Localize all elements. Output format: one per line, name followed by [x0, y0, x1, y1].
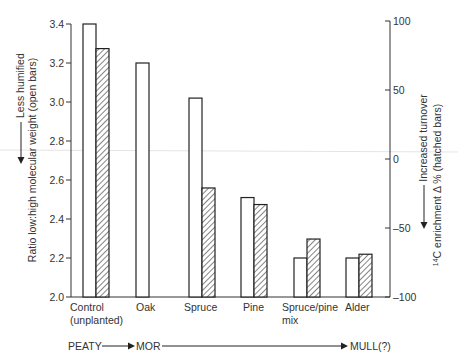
category-label: Alder: [345, 301, 370, 313]
open-bar: [136, 63, 149, 297]
bar-chart: 2.02.22.42.62.83.03.23.4 100500–50–100 C…: [0, 0, 458, 364]
left-tick-label: 3.2: [49, 57, 64, 69]
flow-label-peaty: PEATY: [68, 340, 102, 352]
left-tick-label: 2.6: [49, 174, 64, 186]
left-tick-label: 3.0: [49, 96, 64, 108]
left-tick-label: 2.2: [49, 252, 64, 264]
arrowhead-icon: [18, 157, 25, 164]
left-tick-label: 2.4: [49, 213, 64, 225]
category-label: (unplanted): [70, 314, 123, 326]
less-humified-label: Less humified: [14, 53, 26, 118]
open-bar: [241, 198, 254, 297]
arrowhead-icon: [421, 222, 428, 229]
category-label: Spruce: [184, 301, 217, 313]
left-axis-label: Ratio low:high molecular weight (open ba…: [26, 58, 38, 262]
soil-type-flow: PEATY MOR MULL(?): [68, 340, 391, 352]
right-axis-annotation: Increased turnover: [417, 94, 429, 229]
hatched-bar: [359, 254, 372, 297]
left-axis-annotation: Less humified: [14, 53, 26, 164]
increased-turnover-label: Increased turnover: [417, 94, 429, 182]
arrowhead-icon: [128, 343, 135, 350]
open-bar: [294, 258, 307, 297]
hatched-bar: [202, 188, 215, 297]
right-tick-label: –50: [393, 222, 411, 234]
category-label: Spruce/pine: [282, 301, 338, 313]
right-tick-label: –100: [393, 291, 417, 303]
hatched-bar: [254, 205, 267, 297]
category-labels: Control(unplanted)OakSprucePineSpruce/pi…: [70, 301, 370, 326]
category-label: Control: [70, 301, 104, 313]
hatched-bar: [307, 239, 320, 297]
open-bar: [189, 98, 202, 297]
category-label: Oak: [136, 301, 156, 313]
open-bar: [346, 258, 359, 297]
category-label: Pine: [243, 301, 264, 313]
right-tick-label: 50: [393, 84, 405, 96]
right-tick-label: 100: [393, 15, 411, 27]
right-axis-label: 14C enrichment Δ % (hatched bars): [431, 104, 443, 266]
left-tick-label: 2.0: [49, 291, 64, 303]
right-axis-title: 14C enrichment Δ % (hatched bars): [431, 104, 443, 266]
flow-label-mor: MOR: [136, 340, 161, 352]
flow-label-mull: MULL(?): [350, 340, 391, 352]
category-label: mix: [282, 314, 299, 326]
open-bar: [83, 24, 96, 297]
bars: [83, 24, 372, 297]
arrowhead-icon: [341, 343, 348, 350]
left-tick-label: 3.4: [49, 18, 64, 30]
superscript-14: 14: [432, 258, 439, 266]
left-axis-title: Ratio low:high molecular weight (open ba…: [26, 58, 38, 262]
left-tick-label: 2.8: [49, 135, 64, 147]
faint-line: [0, 150, 458, 152]
right-tick-label: 0: [393, 153, 399, 165]
right-axis: 100500–50–100: [385, 15, 417, 303]
right-axis-label-main: C enrichment Δ % (hatched bars): [431, 104, 443, 259]
hatched-bar: [96, 49, 109, 297]
